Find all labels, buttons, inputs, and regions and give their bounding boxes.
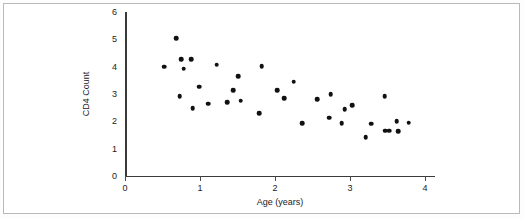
data-point (382, 94, 387, 99)
data-point (177, 94, 182, 99)
data-point (236, 74, 241, 79)
data-point (179, 57, 184, 62)
data-point (238, 98, 243, 103)
data-point (291, 79, 296, 84)
x-tick-label: 2 (272, 183, 277, 193)
scatter-plot-screenshot: 01234 0123456 Age (years) CD4 Count (0, 0, 525, 219)
data-point (174, 36, 179, 41)
data-point (363, 135, 368, 140)
x-axis-line (125, 176, 435, 177)
data-point (190, 106, 195, 111)
data-point (214, 62, 219, 67)
y-tick-label: 4 (108, 62, 117, 72)
x-tick-label: 3 (347, 183, 352, 193)
data-point (259, 64, 264, 69)
data-point (162, 64, 167, 69)
data-point (327, 115, 332, 120)
data-point (181, 66, 186, 71)
data-point (369, 121, 374, 126)
x-axis-title: Age (years) (257, 197, 304, 207)
data-point (396, 129, 401, 134)
x-tick-label: 4 (422, 183, 427, 193)
y-tick-label: 2 (108, 116, 117, 126)
data-point (339, 121, 344, 126)
data-point (206, 102, 211, 107)
x-tick-mark (425, 176, 426, 181)
data-point (231, 88, 236, 93)
x-tick-mark (350, 176, 351, 181)
data-point (406, 120, 411, 125)
y-tick-label: 1 (108, 144, 117, 154)
data-point (282, 96, 287, 101)
data-point (225, 100, 230, 105)
data-point (387, 128, 392, 133)
y-axis-title: CD4 Count (81, 72, 91, 117)
data-point (257, 111, 262, 116)
y-axis-line (125, 12, 127, 176)
data-point (189, 57, 194, 62)
x-tick-mark (200, 176, 201, 181)
y-tick-label: 3 (108, 89, 117, 99)
scatter-plot-figure: 01234 0123456 Age (years) CD4 Count (0, 0, 525, 219)
data-point (300, 121, 305, 126)
data-point (197, 84, 202, 89)
data-point (394, 119, 399, 124)
x-tick-label: 1 (197, 183, 202, 193)
data-point (275, 88, 280, 93)
x-tick-mark (125, 176, 126, 181)
y-tick-label: 0 (108, 171, 117, 181)
y-tick-label: 5 (108, 34, 117, 44)
x-tick-mark (275, 176, 276, 181)
x-tick-label: 0 (122, 183, 127, 193)
data-point (315, 97, 320, 102)
data-point (342, 107, 347, 112)
y-tick-label: 6 (108, 7, 117, 17)
data-point (328, 92, 333, 97)
data-point (350, 103, 355, 108)
